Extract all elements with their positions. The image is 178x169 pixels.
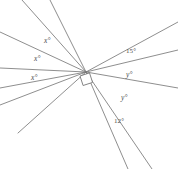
angle-ray <box>50 0 86 72</box>
angle-label-label-y-1: y° <box>126 71 133 79</box>
angle-label-label-12: 12° <box>114 118 124 125</box>
angle-label-label-x-1: x° <box>44 37 51 45</box>
angle-ray <box>0 72 86 105</box>
angle-ray <box>0 68 86 72</box>
rays-group <box>0 0 178 169</box>
angle-ray <box>0 32 86 72</box>
angle-diagram: x°x°x°15°y°y°12° <box>0 0 178 169</box>
angle-ray <box>18 72 86 133</box>
angle-ray <box>0 72 86 88</box>
angle-ray <box>22 0 86 72</box>
angle-label-label-x-3: x° <box>31 74 38 82</box>
angle-label-label-15: 15° <box>126 48 136 55</box>
angle-label-label-y-2: y° <box>121 94 128 102</box>
geometry-figure <box>0 0 178 169</box>
angle-label-label-x-2: x° <box>34 55 41 63</box>
